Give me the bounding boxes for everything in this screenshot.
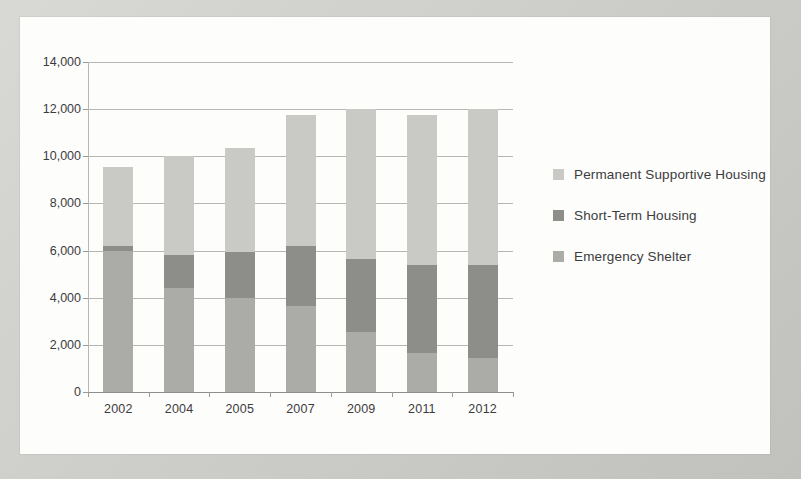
y-tick-mark-4000: [83, 298, 88, 299]
y-tick-label-4000: 4,000: [26, 291, 81, 305]
bar-segment-2005-emergency-shelter: [225, 298, 255, 392]
x-tick-mark-2002: [88, 392, 89, 397]
y-tick-label-0: 0: [26, 385, 81, 399]
bar-segment-2007-short-term-housing: [286, 246, 316, 306]
bar-segment-2012-short-term-housing: [468, 265, 498, 358]
legend-item-permanent-supportive-housing[interactable]: Permanent Supportive Housing: [553, 167, 801, 182]
y-tick-label-10000: 10,000: [26, 149, 81, 163]
y-tick-label-8000: 8,000: [26, 196, 81, 210]
bar-segment-2009-permanent-supportive-housing: [346, 109, 376, 259]
x-tick-mark-end: [513, 392, 514, 397]
legend-item-short-term-housing[interactable]: Short-Term Housing: [553, 208, 801, 223]
y-tick-mark-14000: [83, 62, 88, 63]
x-tick-mark-2005: [209, 392, 210, 397]
y-axis-line: [88, 62, 89, 392]
x-axis-label-2005: 2005: [210, 402, 270, 416]
gridline-14000: [88, 62, 513, 63]
legend-item-label: Emergency Shelter: [574, 249, 691, 264]
x-tick-mark-2007: [270, 392, 271, 397]
x-axis-label-2011: 2011: [392, 402, 452, 416]
bar-segment-2002-emergency-shelter: [103, 251, 133, 392]
legend-item-label: Permanent Supportive Housing: [574, 167, 766, 182]
bar-segment-2011-emergency-shelter: [407, 353, 437, 392]
chart-plot-area: 02,0004,0006,0008,00010,00012,00014,000 …: [88, 62, 513, 392]
gridline-12000: [88, 109, 513, 110]
x-axis-label-2009: 2009: [331, 402, 391, 416]
legend-swatch-icon: [553, 251, 564, 262]
bar-segment-2004-emergency-shelter: [164, 288, 194, 392]
y-tick-label-6000: 6,000: [26, 244, 81, 258]
y-tick-mark-12000: [83, 109, 88, 110]
bar-segment-2009-emergency-shelter: [346, 332, 376, 392]
legend-item-emergency-shelter[interactable]: Emergency Shelter: [553, 249, 801, 264]
chart-figure-panel: 02,0004,0006,0008,00010,00012,00014,000 …: [20, 17, 770, 454]
bar-segment-2011-permanent-supportive-housing: [407, 115, 437, 265]
bar-segment-2007-emergency-shelter: [286, 306, 316, 392]
legend-swatch-icon: [553, 169, 564, 180]
x-tick-mark-2011: [392, 392, 393, 397]
bar-segment-2012-emergency-shelter: [468, 358, 498, 392]
legend-swatch-icon: [553, 210, 564, 221]
x-axis-line: [88, 392, 513, 393]
chart-legend: Permanent Supportive HousingShort-Term H…: [553, 167, 801, 290]
bar-2011: [407, 115, 437, 392]
x-tick-mark-2009: [331, 392, 332, 397]
y-tick-mark-10000: [83, 156, 88, 157]
y-tick-mark-2000: [83, 345, 88, 346]
y-tick-mark-6000: [83, 251, 88, 252]
bar-2007: [286, 115, 316, 392]
y-tick-label-14000: 14,000: [26, 55, 81, 69]
bar-segment-2012-permanent-supportive-housing: [468, 109, 498, 265]
bar-segment-2005-short-term-housing: [225, 252, 255, 298]
y-tick-mark-8000: [83, 203, 88, 204]
bar-2002: [103, 167, 133, 392]
x-axis-label-2002: 2002: [88, 402, 148, 416]
x-axis-label-2004: 2004: [149, 402, 209, 416]
bar-segment-2002-permanent-supportive-housing: [103, 167, 133, 246]
x-tick-mark-2004: [149, 392, 150, 397]
y-tick-label-2000: 2,000: [26, 338, 81, 352]
bar-segment-2007-permanent-supportive-housing: [286, 115, 316, 246]
bar-2012: [468, 109, 498, 392]
bar-segment-2004-permanent-supportive-housing: [164, 156, 194, 255]
bar-segment-2009-short-term-housing: [346, 259, 376, 332]
screenshot-root: 02,0004,0006,0008,00010,00012,00014,000 …: [0, 0, 801, 479]
bar-2009: [346, 109, 376, 392]
bar-segment-2004-short-term-housing: [164, 255, 194, 288]
x-tick-mark-2012: [452, 392, 453, 397]
bar-segment-2011-short-term-housing: [407, 265, 437, 353]
legend-item-label: Short-Term Housing: [574, 208, 697, 223]
y-tick-label-12000: 12,000: [26, 102, 81, 116]
x-axis-label-2007: 2007: [271, 402, 331, 416]
x-axis-label-2012: 2012: [453, 402, 513, 416]
bar-2004: [164, 156, 194, 392]
bar-2005: [225, 148, 255, 392]
bar-segment-2005-permanent-supportive-housing: [225, 148, 255, 252]
